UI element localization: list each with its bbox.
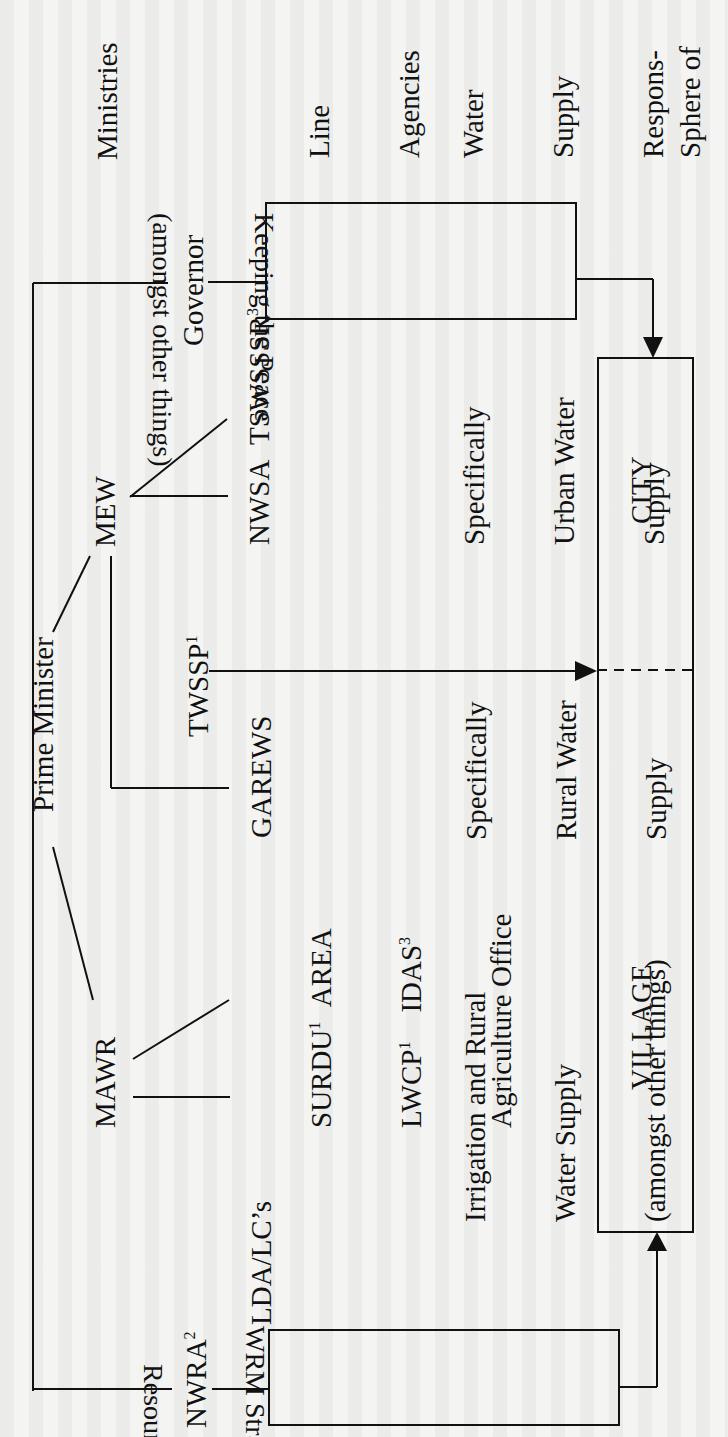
mawr-agencies-line1: SURDU1 AREA — [306, 914, 336, 1128]
node-surdu-footnote: 1 — [306, 1022, 323, 1030]
sphere-village: VILLAGE — [626, 964, 656, 1090]
node-garews: GAREWS — [246, 716, 276, 838]
keeping-the-peace-line1: Keeping the Peace — [247, 213, 281, 467]
node-prime-minister: Prime Minister — [28, 637, 58, 812]
node-mawr: MAWR — [90, 1037, 120, 1128]
rural-line1: Specifically — [461, 700, 491, 840]
node-twssp-footnote: 1 — [183, 636, 200, 644]
diagram-canvas: Ministries Line Agencies Water Supply Re… — [0, 0, 728, 1437]
node-surdu: SURDU — [305, 1030, 337, 1128]
header-soi-line1: Sphere of — [675, 46, 705, 158]
box-keeping-the-peace: Keeping the Peace (amongst other things) — [265, 202, 577, 320]
wrm-line2: Resource Protection — [136, 1326, 170, 1437]
header-sphere-of-involvement: Sphere of Involve- ment — [615, 46, 728, 158]
node-area: AREA — [305, 928, 337, 1007]
box-wrm-strategy: WRM Strategy and Planning Resource Prote… — [268, 1329, 620, 1426]
keeping-the-peace-text: Keeping the Peace (amongst other things) — [77, 213, 349, 467]
keeping-the-peace-line2: (amongst other things) — [145, 213, 179, 467]
header-ministries: Ministries — [92, 42, 122, 160]
irrigation-line2: Water Supply — [550, 959, 580, 1222]
header-wsr-line2: Supply — [548, 50, 578, 158]
node-twssp: TWSSP1 — [183, 636, 213, 737]
header-line-agencies-line1: Line — [304, 50, 334, 158]
header-wsr-line1: Water — [458, 50, 488, 158]
node-mew: MEW — [90, 476, 120, 547]
node-twssp-text: TWSSP — [182, 644, 214, 737]
node-lda-lcs: LDA/LC’s — [246, 1201, 276, 1325]
wrm-line1: WRM Strategy and Planning — [238, 1326, 272, 1437]
urban-line1: Specifically — [459, 397, 489, 545]
urban-line2: Urban Water — [549, 397, 579, 545]
wrm-strategy-text: WRM Strategy and Planning Resource Prote… — [68, 1326, 340, 1437]
irrigation-line1: Irrigation and Rural — [460, 959, 490, 1222]
rural-line2: Rural Water — [551, 700, 581, 840]
sphere-city: CITY — [626, 456, 656, 524]
node-idas-footnote: 3 — [396, 937, 413, 945]
node-nwsa: NWSA — [244, 460, 274, 545]
